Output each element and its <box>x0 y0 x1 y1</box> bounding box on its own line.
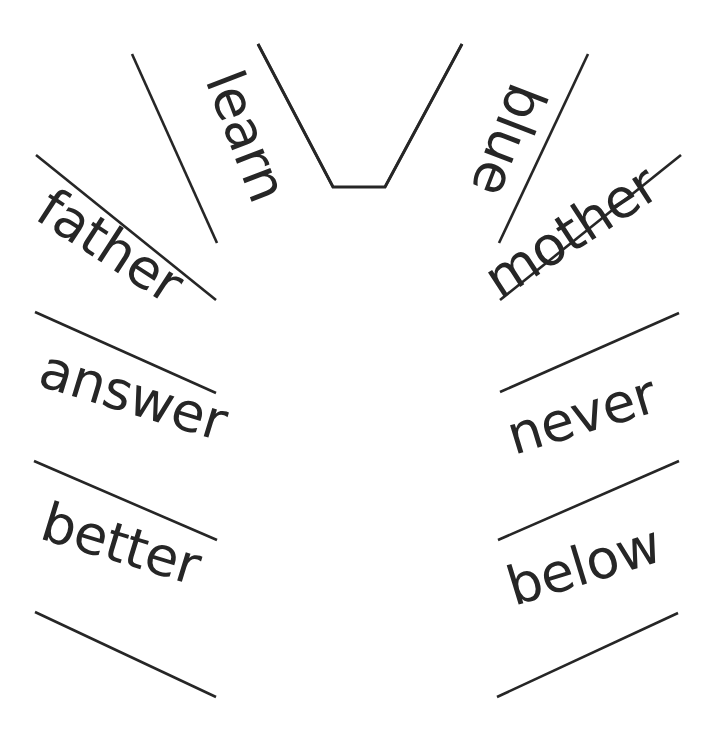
radial-word-fan-figure: learnfatheranswerbetterbluemotherneverbe… <box>0 0 712 739</box>
fan-canvas: learnfatheranswerbetterbluemotherneverbe… <box>0 0 712 739</box>
